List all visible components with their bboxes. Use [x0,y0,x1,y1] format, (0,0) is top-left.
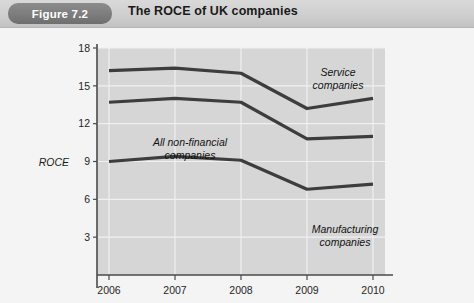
figure-title: The ROCE of UK companies [128,4,298,18]
series-label-0: companies [313,79,365,91]
x-tick-label: 2009 [295,284,319,296]
y-tick-label: 12 [78,117,90,129]
figure-container: Figure 7.2 The ROCE of UK companies 3691… [0,0,474,303]
y-axis-ticks: 369121518 [78,42,97,243]
series-label-2: companies [320,236,372,248]
x-tick-label: 2010 [361,284,385,296]
x-axis-ticks: 20062007200820092010 [97,275,385,296]
x-tick-label: 2006 [97,284,121,296]
y-tick-label: 15 [78,80,90,92]
y-tick-label: 3 [84,231,90,243]
y-tick-label: 18 [78,42,90,54]
y-tick-label: 6 [84,193,90,205]
series-label-1: All non-financial [152,136,228,148]
x-tick-label: 2007 [163,284,187,296]
y-axis-title: ROCE [39,156,70,168]
figure-number-badge: Figure 7.2 [8,3,112,24]
series-label-1: companies [165,149,217,161]
series-label-0: Service [320,66,355,78]
y-tick-label: 9 [84,155,90,167]
line-chart: 369121518 20062007200820092010 ROCE Serv… [0,28,474,303]
chart-canvas: 369121518 20062007200820092010 ROCE Serv… [0,28,474,303]
series-label-2: Manufacturing [312,223,379,235]
figure-header: Figure 7.2 The ROCE of UK companies [0,0,474,28]
x-tick-label: 2008 [229,284,253,296]
